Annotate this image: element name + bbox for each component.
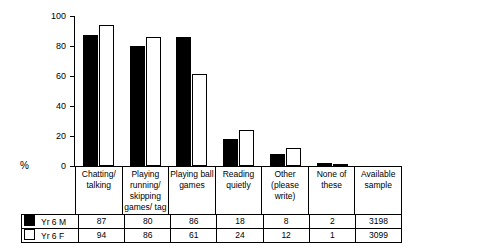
y-tick-label-80: 80 — [38, 42, 66, 51]
y-tick-label-100: 100 — [38, 12, 66, 21]
table-row: Yr 6 M87808618823198 — [22, 215, 402, 229]
table-value-cell: 8 — [263, 215, 309, 229]
category-label-cell: None of these — [308, 167, 355, 218]
category-label-line: Playing — [124, 169, 168, 180]
category-label-line: write) — [263, 191, 307, 202]
category-axis-table: Chatting/talkingPlayingrunning/skippingg… — [75, 166, 402, 218]
table-value-cell: 12 — [263, 229, 309, 243]
table-value-cell: 1 — [309, 229, 355, 243]
category-label-cell: Other(pleasewrite) — [262, 167, 309, 218]
y-axis-title: % — [20, 161, 29, 171]
category-label-line: skipping — [124, 191, 168, 202]
table-value-cell: 24 — [217, 229, 263, 243]
category-label-cell: Playingrunning/skippinggames/ tag — [122, 167, 169, 218]
legend-cell: Yr 6 F — [22, 229, 79, 243]
bar-yr6m — [83, 35, 98, 166]
table-value-cell: 94 — [79, 229, 125, 243]
category-label-line: Reading — [217, 169, 261, 180]
legend-data-table: Yr 6 M87808618823198Yr 6 F94866124121309… — [21, 214, 402, 243]
category-label-line: running/ — [124, 180, 168, 191]
category-label-line: games — [170, 180, 214, 191]
category-label-cell: Playing ballgames — [169, 167, 216, 218]
bar-yr6f — [192, 74, 207, 166]
y-tick-label-60: 60 — [38, 72, 66, 81]
bar-yr6m — [223, 139, 238, 166]
bar-group — [309, 16, 356, 166]
category-label-line: (please — [263, 180, 307, 191]
category-label-cell: Chatting/talking — [76, 167, 123, 218]
y-tick-label-20: 20 — [38, 132, 66, 141]
bar-yr6f — [146, 37, 161, 166]
table-value-cell: 87 — [79, 215, 125, 229]
chart-figure: 100 80 60 40 20 0 % Chatting/talkingPlay… — [0, 0, 477, 249]
legend-swatch-hollow-icon — [24, 229, 35, 240]
category-label-line: talking — [77, 180, 121, 191]
category-label-line: Playing ball — [170, 169, 214, 180]
bars-layer — [75, 16, 402, 166]
bar-yr6f — [286, 148, 301, 166]
table-value-cell: 86 — [171, 215, 217, 229]
bar-yr6m — [270, 154, 285, 166]
bar-group — [122, 16, 169, 166]
legend-swatch-filled-icon — [24, 215, 35, 226]
category-label-line: Chatting/ — [77, 169, 121, 180]
y-tick-label-40: 40 — [38, 102, 66, 111]
plot-area: 100 80 60 40 20 0 % — [0, 0, 477, 170]
legend-series-label: Yr 6 F — [41, 231, 64, 242]
bar-group — [215, 16, 262, 166]
bar-yr6m — [130, 46, 145, 166]
bar-yr6f — [239, 130, 254, 166]
table-value-cell: 61 — [171, 229, 217, 243]
bar-group — [262, 16, 309, 166]
table-value-cell: 18 — [217, 215, 263, 229]
table-value-cell: 2 — [309, 215, 355, 229]
category-label-cell: Availablesample — [355, 167, 402, 218]
category-label-line: Other — [263, 169, 307, 180]
category-label-line: quietly — [217, 180, 261, 191]
category-label-line: sample — [356, 180, 400, 191]
category-label-line: None of these — [310, 169, 354, 191]
bar-group — [168, 16, 215, 166]
legend-cell: Yr 6 M — [22, 215, 79, 229]
table-value-cell: 80 — [125, 215, 171, 229]
y-tick-label-0: 0 — [38, 162, 66, 171]
table-value-cell: 3099 — [355, 229, 401, 243]
table-value-cell: 86 — [125, 229, 171, 243]
bar-group — [75, 16, 122, 166]
category-label-cell: Readingquietly — [215, 167, 262, 218]
bar-yr6m — [176, 37, 191, 166]
category-row: Chatting/talkingPlayingrunning/skippingg… — [76, 167, 402, 218]
bar-group — [355, 16, 402, 166]
legend-series-label: Yr 6 M — [41, 217, 66, 228]
table-value-cell: 3198 — [355, 215, 401, 229]
category-label-line: Available — [356, 169, 400, 180]
category-label-line: games/ tag — [124, 202, 168, 213]
table-row: Yr 6 F948661241213099 — [22, 229, 402, 243]
bar-yr6f — [99, 25, 114, 166]
